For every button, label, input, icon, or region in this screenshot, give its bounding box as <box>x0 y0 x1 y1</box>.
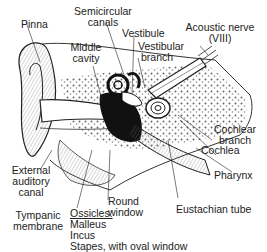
label-semicircular-canals: Semicircular canals <box>71 6 135 28</box>
label-vestibular-line2: branch <box>138 52 184 63</box>
label-stapes: Stapes, with oval window <box>70 241 187 252</box>
label-ossicles: Ossicles: Malleus Incus Stapes, with ova… <box>70 208 187 252</box>
label-pharynx: Pharynx <box>214 170 253 181</box>
label-external-line3: canal <box>8 187 54 198</box>
label-pinna: Pinna <box>21 19 48 30</box>
label-acoustic-nerve: Acoustic nerve (VIII) <box>180 22 260 44</box>
label-cochlear-branch: Cochlear branch <box>214 124 256 146</box>
label-middle-line2: cavity <box>68 53 104 64</box>
label-middle-cavity: Middle cavity <box>68 42 104 64</box>
label-eustachian-tube: Eustachian tube <box>176 204 251 215</box>
label-cochlea: Cochlea <box>201 145 240 156</box>
label-vestibular-branch: Vestibular branch <box>138 41 184 63</box>
label-vestibule: Vestibule <box>122 28 165 39</box>
label-external-auditory-canal: External auditory canal <box>8 165 54 198</box>
label-tympanic-line2: membrane <box>10 221 66 232</box>
label-acoustic-line2: (VIII) <box>180 33 260 44</box>
label-tympanic-membrane: Tympanic membrane <box>10 210 66 232</box>
